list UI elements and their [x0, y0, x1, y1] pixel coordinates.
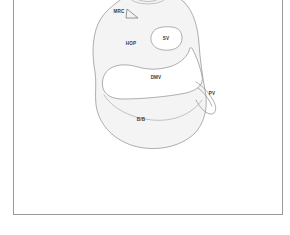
region-label-hop: HOP	[126, 41, 136, 46]
region-label-dmv: DMV	[151, 75, 162, 80]
region-label-mrc: MRC	[114, 9, 125, 14]
anatomical-diagram: MRC HOP SV DMV PV B/B	[0, 0, 290, 235]
region-label-sv: SV	[163, 36, 170, 41]
region-label-bb: B/B	[137, 117, 146, 122]
figure-root: MRC HOP SV DMV PV B/B	[0, 0, 290, 235]
region-label-pv: PV	[209, 91, 216, 96]
